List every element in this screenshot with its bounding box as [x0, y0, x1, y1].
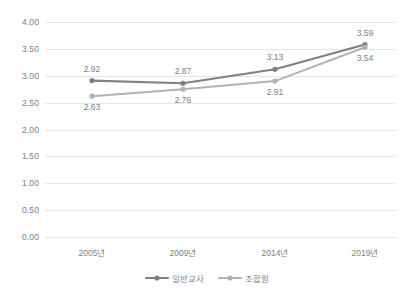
legend-item-label: 조합원 — [245, 272, 269, 284]
series-line — [92, 45, 365, 84]
data-point-value-label: 2.92 — [72, 64, 112, 74]
data-series — [89, 45, 367, 99]
data-point-value-label: 2.63 — [72, 102, 112, 112]
data-point-marker — [272, 67, 277, 72]
data-point-marker — [180, 87, 185, 92]
y-axis-tick-label: 0.00 — [5, 232, 39, 242]
data-point-marker — [362, 45, 367, 50]
y-axis-tick-label: 2.50 — [5, 98, 39, 108]
legend-marker-icon — [218, 273, 242, 283]
y-axis-tick-label: 3.00 — [5, 71, 39, 81]
data-point-marker — [272, 78, 277, 83]
chart-legend: 일반교사조합원 — [0, 272, 413, 284]
y-axis-tick-label: 4.00 — [5, 17, 39, 27]
data-point-marker — [89, 78, 94, 83]
x-axis-tick-label: 2005년 — [57, 246, 127, 258]
legend-item[interactable]: 조합원 — [218, 272, 269, 284]
data-series-group — [89, 42, 367, 99]
x-axis-tick-label: 2014년 — [240, 246, 310, 258]
y-axis-tick-label: 2.00 — [5, 125, 39, 135]
data-point-marker — [180, 81, 185, 86]
line-chart: 4.003.503.002.502.001.501.000.500.00 200… — [0, 0, 413, 301]
data-point-value-label: 2.91 — [255, 87, 295, 97]
data-point-value-label: 2.87 — [163, 66, 203, 76]
data-point-marker — [89, 94, 94, 99]
data-point-value-label: 2.76 — [163, 95, 203, 105]
series-line — [92, 47, 365, 96]
x-axis-tick-label: 2019년 — [330, 246, 400, 258]
data-point-value-label: 3.13 — [255, 52, 295, 62]
data-point-value-label: 3.59 — [345, 28, 385, 38]
legend-marker-icon — [145, 273, 169, 283]
x-axis-tick-label: 2009년 — [148, 246, 218, 258]
y-axis-tick-label: 1.00 — [5, 178, 39, 188]
y-axis-tick-label: 1.50 — [5, 151, 39, 161]
legend-item-label: 일반교사 — [172, 272, 204, 284]
legend-item[interactable]: 일반교사 — [145, 272, 204, 284]
data-point-value-label: 3.54 — [345, 53, 385, 63]
data-series — [89, 42, 367, 86]
y-axis-tick-label: 3.50 — [5, 44, 39, 54]
y-axis-tick-label: 0.50 — [5, 205, 39, 215]
